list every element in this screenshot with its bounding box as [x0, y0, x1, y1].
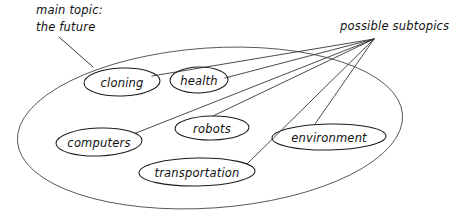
main-topic-leader-line	[59, 37, 93, 67]
connector-transportation	[247, 39, 374, 164]
main-topic-caption-line1: main topic:	[36, 3, 103, 17]
subtopic-label-cloning: cloning	[100, 76, 143, 90]
subtopic-label-robots: robots	[193, 122, 231, 136]
subtopic-label-transportation: transportation	[154, 166, 239, 180]
possible-subtopics-caption: possible subtopics	[339, 19, 449, 33]
concept-map-svg: cloning health computers robots transpor…	[0, 0, 465, 218]
subtopic-label-health: health	[180, 74, 218, 88]
connector-health	[225, 39, 374, 78]
connector-cloning	[152, 39, 374, 76]
subtopic-label-computers: computers	[67, 136, 130, 150]
diagram-canvas: cloning health computers robots transpor…	[0, 0, 465, 218]
connector-computers	[136, 39, 374, 133]
main-topic-caption-line2: the future	[36, 20, 95, 34]
subtopic-label-environment: environment	[291, 131, 367, 145]
